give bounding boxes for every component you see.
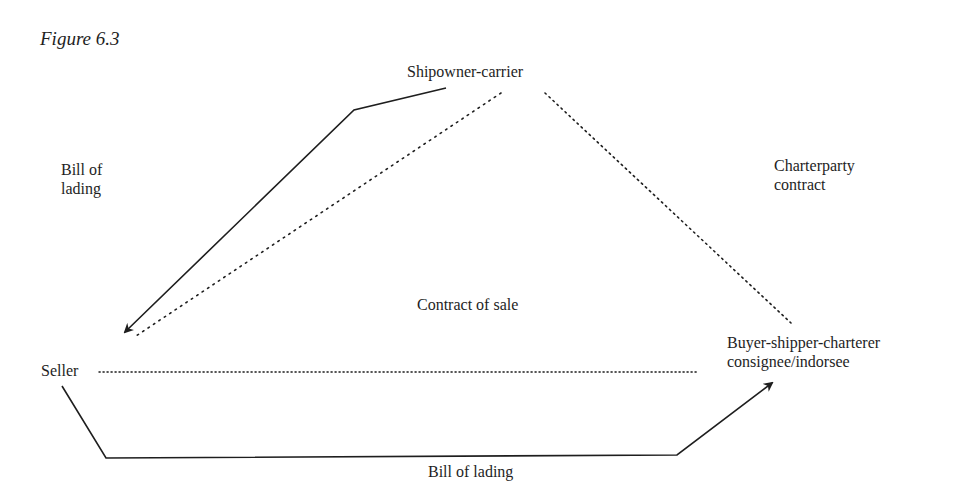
- edge-dotted-shipowner-seller: [136, 93, 501, 336]
- edge-bill-of-lading-to-buyer: [62, 383, 772, 458]
- edge-bill-of-lading-to-seller: [125, 88, 446, 332]
- diagram-connectors: [0, 0, 965, 500]
- edge-charterparty-contract: [545, 93, 791, 323]
